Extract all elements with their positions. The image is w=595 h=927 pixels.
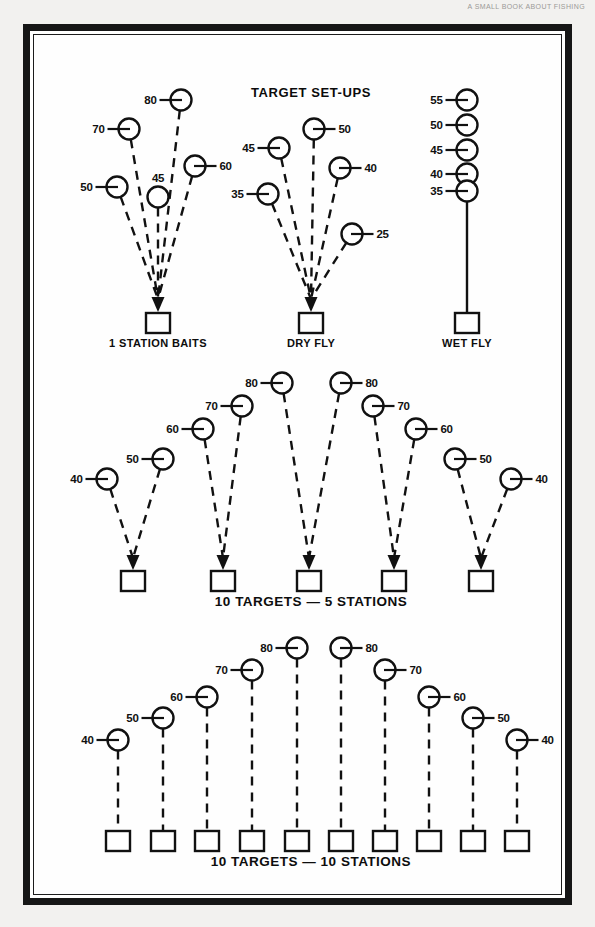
wet-fly-node-45-2-value: 45 [430,144,443,156]
one-station-baits-node-50-0-connector [121,197,158,299]
one-station-baits-node-45-2-circle[interactable] [148,187,169,208]
ten-targets-ten-stations-node-40-9-value: 40 [542,734,554,746]
dry-fly-node-45-1-value: 45 [242,142,255,154]
figure-plate: TARGET SET-UPS50704580601 STATION BAITS3… [23,24,572,905]
ten-targets-ten-stations-station-5[interactable] [329,831,353,851]
ten-targets-five-stations-station-2[interactable] [297,571,321,591]
ten-targets-five-stations-node-70-3-connector [223,416,241,558]
running-head: A SMALL BOOK ABOUT FISHING [0,0,595,14]
wet-fly-node-50-1-value: 50 [430,119,442,131]
wet-fly-station-square[interactable] [455,313,479,333]
ten-targets-five-stations-node-80-4-value: 80 [245,377,257,389]
ten-targets-ten-stations-station-8[interactable] [461,831,485,851]
ten-targets-ten-stations-node-70-6-value: 70 [410,664,422,676]
ten-targets-five-stations-node-40-0-connector [110,489,133,558]
ten-targets-five-stations-node-40-9-value: 40 [536,473,548,485]
ten-targets-five-stations-node-40-9-connector [481,489,507,558]
ten-targets-five-stations-node-80-5-connector [309,393,339,558]
ten-targets-five-stations-node-60-7-value: 60 [441,423,453,435]
ten-targets-ten-stations-station-3[interactable] [240,831,264,851]
ten-targets-ten-stations-station-4[interactable] [285,831,309,851]
one-station-baits-node-45-2-value: 45 [152,172,165,184]
ten-targets-five-stations-node-40-0-value: 40 [70,473,82,485]
dry-fly-node-25-4-value: 25 [377,228,390,240]
dry-fly-node-25-4-connector [311,243,346,299]
dry-fly-node-40-3-value: 40 [365,162,377,174]
wet-fly-node-40-3-value: 40 [430,168,442,180]
ten-targets-five-stations-node-60-7-connector [394,439,414,558]
dry-fly-node-35-0-value: 35 [231,188,244,200]
ten-targets-five-stations-station-4[interactable] [469,571,493,591]
wet-fly-node-55-0-value: 55 [430,94,443,106]
one-station-baits-node-60-4-value: 60 [220,160,232,172]
ten-targets-five-stations-arrowhead-3 [388,555,401,570]
ten-targets-ten-stations-label: 10 TARGETS — 10 STATIONS [211,854,411,869]
ten-targets-ten-stations-station-7[interactable] [417,831,441,851]
ten-targets-five-stations-station-1[interactable] [211,571,235,591]
ten-targets-ten-stations-node-60-7-value: 60 [454,691,466,703]
ten-targets-ten-stations-node-50-8-value: 50 [498,712,510,724]
ten-targets-five-stations-arrowhead-2 [303,555,316,570]
ten-targets-five-stations-node-60-2-connector [205,439,223,558]
ten-targets-ten-stations-station-9[interactable] [505,831,529,851]
figure-plate-inner: TARGET SET-UPS50704580601 STATION BAITS3… [33,34,562,895]
wet-fly-label: WET FLY [442,337,492,349]
page-root: A SMALL BOOK ABOUT FISHING TARGET SET-UP… [0,0,595,927]
ten-targets-five-stations-node-70-6-value: 70 [398,400,410,412]
ten-targets-ten-stations-node-80-4-value: 80 [260,642,272,654]
one-station-baits-node-70-1-value: 70 [92,123,104,135]
ten-targets-ten-stations-node-80-5-value: 80 [366,642,378,654]
dry-fly-node-35-0-connector [272,204,311,299]
ten-targets-five-stations-node-50-8-value: 50 [480,453,492,465]
ten-targets-ten-stations-node-50-1-value: 50 [126,712,138,724]
ten-targets-ten-stations-station-0[interactable] [106,831,130,851]
one-station-baits-node-50-0-value: 50 [80,181,92,193]
ten-targets-five-stations-arrowhead-1 [217,555,230,570]
ten-targets-five-stations-station-0[interactable] [121,571,145,591]
ten-targets-five-stations-node-50-8-connector [458,469,481,558]
one-station-baits-station-square[interactable] [146,313,170,333]
one-station-baits-node-80-3-value: 80 [144,94,156,106]
ten-targets-five-stations-node-70-3-value: 70 [205,400,217,412]
dry-fly-label: DRY FLY [287,337,336,349]
ten-targets-ten-stations-node-70-3-value: 70 [215,664,227,676]
dry-fly-node-40-3-connector [311,178,338,299]
ten-targets-five-stations-node-70-6-connector [374,416,394,558]
figure-title: TARGET SET-UPS [251,85,371,100]
one-station-baits-node-70-1-connector [131,139,158,299]
ten-targets-ten-stations-station-6[interactable] [373,831,397,851]
target-setups-diagram: TARGET SET-UPS50704580601 STATION BAITS3… [34,35,562,895]
ten-targets-five-stations-node-50-1-value: 50 [126,453,138,465]
dry-fly-node-45-1-connector [281,158,311,299]
dry-fly-node-50-2-value: 50 [339,123,351,135]
ten-targets-five-stations-arrowhead-0 [127,555,140,570]
ten-targets-ten-stations-station-1[interactable] [151,831,175,851]
ten-targets-five-stations-node-60-2-value: 60 [166,423,178,435]
ten-targets-five-stations-node-80-4-connector [284,393,309,558]
dry-fly-node-50-2-connector [311,139,314,299]
wet-fly-node-35-4-value: 35 [430,185,443,197]
one-station-baits-arrowhead [152,297,165,312]
ten-targets-ten-stations-node-60-2-value: 60 [170,691,182,703]
ten-targets-five-stations-station-3[interactable] [382,571,406,591]
ten-targets-five-stations-node-80-5-value: 80 [366,377,378,389]
ten-targets-five-stations-node-50-1-connector [133,469,160,558]
one-station-baits-label: 1 STATION BAITS [109,337,207,349]
ten-targets-ten-stations-node-40-0-value: 40 [81,734,93,746]
ten-targets-ten-stations-station-2[interactable] [195,831,219,851]
ten-targets-five-stations-label: 10 TARGETS — 5 STATIONS [215,594,407,609]
dry-fly-station-square[interactable] [299,313,323,333]
dry-fly-arrowhead [305,297,318,312]
ten-targets-five-stations-arrowhead-4 [475,555,488,570]
